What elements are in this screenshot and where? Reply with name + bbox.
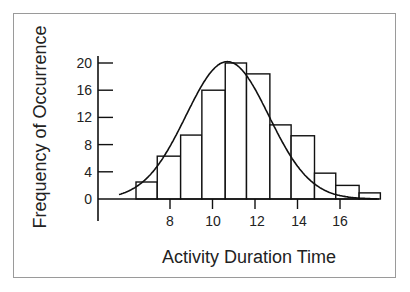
histogram-bar [291, 136, 314, 199]
y-tick-label: 16 [76, 82, 92, 98]
histogram-bar [247, 74, 270, 199]
y-tick-label: 0 [84, 191, 92, 207]
y-axis-label: Frequency of Occurrence [30, 25, 51, 228]
x-tick-label: 10 [205, 213, 221, 229]
x-tick-label: 14 [291, 213, 307, 229]
y-tick-label: 8 [84, 137, 92, 153]
histogram-bar [202, 90, 225, 199]
x-tick-label: 12 [249, 213, 265, 229]
histogram-bars [136, 63, 380, 199]
histogram-bar [270, 125, 291, 199]
histogram-bar [225, 63, 246, 199]
x-axis-label: Activity Duration Time [162, 247, 336, 268]
x-tick-label: 16 [332, 213, 348, 229]
x-tick-label: 8 [166, 213, 174, 229]
y-tick-label: 12 [76, 109, 92, 125]
y-tick-label: 4 [84, 164, 92, 180]
histogram-bar [181, 135, 202, 199]
y-tick-label: 20 [76, 55, 92, 71]
